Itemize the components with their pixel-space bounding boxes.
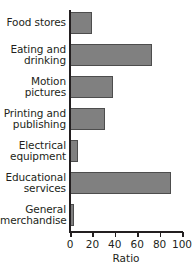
x-axis-tick-80	[160, 232, 162, 237]
x-axis-line	[69, 231, 183, 233]
x-axis-tick-0	[70, 232, 72, 237]
x-axis-tick-label-0: 0	[67, 238, 74, 250]
x-axis-tick-label-80: 80	[153, 238, 166, 250]
bar-chart: Food stores Eating and drinking Motion p…	[0, 0, 194, 270]
x-axis-tick-40	[115, 232, 117, 237]
bar-motion-pictures	[70, 76, 113, 98]
x-axis-title: Ratio	[69, 252, 183, 264]
bar-printing-and-publishing	[70, 108, 105, 130]
category-label-5: Educational services	[0, 172, 66, 195]
bar-eating-and-drinking	[70, 44, 152, 66]
x-axis-tick-label-20: 20	[86, 238, 99, 250]
category-label-0: Food stores	[0, 17, 66, 29]
category-label-4: Electrical equipment	[0, 140, 66, 163]
bar-food-stores	[70, 12, 92, 34]
x-axis-tick-label-60: 60	[131, 238, 144, 250]
x-axis-tick-100	[182, 232, 184, 237]
bar-electrical-equipment	[70, 140, 78, 162]
bar-educational-services	[70, 172, 171, 194]
category-label-3: Printing and publishing	[0, 108, 66, 131]
y-axis-baseline	[69, 10, 71, 232]
x-axis-tick-label-40: 40	[108, 238, 121, 250]
x-axis-tick-60	[137, 232, 139, 237]
bars-layer	[70, 0, 194, 232]
category-label-1: Eating and drinking	[0, 44, 66, 67]
x-axis-tick-20	[92, 232, 94, 237]
plot-area: Food stores Eating and drinking Motion p…	[0, 0, 194, 232]
category-label-2: Motion pictures	[0, 76, 66, 99]
category-axis-labels: Food stores Eating and drinking Motion p…	[0, 0, 66, 232]
category-label-6: General merchandise	[0, 204, 66, 227]
x-axis-tick-label-100: 100	[172, 238, 192, 250]
